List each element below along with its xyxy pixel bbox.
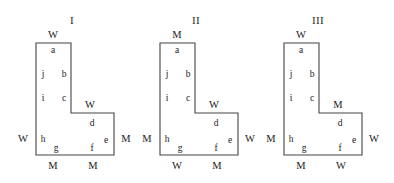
figure-3-bottom-right-label: W <box>336 161 346 172</box>
figure-2-edge-j: j <box>166 70 169 80</box>
figure-1-edge-i: i <box>42 94 45 104</box>
figure-2-edge-c: c <box>186 94 190 104</box>
figure-2-right-label: W <box>245 134 255 145</box>
figure-1-edge-e: e <box>104 136 108 146</box>
figure-2-outline-svg <box>0 0 394 183</box>
figure-1: IWWMMMWabcdefghij <box>0 0 394 183</box>
figure-3-edge-a: a <box>299 46 303 56</box>
figure-2-top-label: M <box>172 30 181 41</box>
figure-1-polygon <box>36 43 114 155</box>
figure-3-left-label: M <box>266 134 275 145</box>
figure-2-left-label: M <box>142 134 151 145</box>
figure-3-right-label: W <box>369 134 379 145</box>
figure-3-polygon <box>284 43 362 155</box>
figure-2: IIMMWWMWabcdefghij <box>0 0 394 183</box>
figure-1-bottom-left-label: M <box>48 161 57 172</box>
figure-2-polygon <box>160 43 238 155</box>
figure-2-step-label: W <box>209 100 219 111</box>
figure-1-outline-svg <box>0 0 394 183</box>
figure-3-edge-d: d <box>338 119 343 129</box>
figure-1-edge-b: b <box>62 70 67 80</box>
figure-3-edge-g: g <box>302 144 307 154</box>
figure-3: IIIWMWMWMabcdefghij <box>0 0 394 183</box>
figure-1-edge-j: j <box>42 70 45 80</box>
figure-1-right-label: M <box>121 134 130 145</box>
figure-1-edge-c: c <box>62 94 66 104</box>
figure-3-edge-h: h <box>289 135 294 145</box>
figure-1-step-label: W <box>85 100 95 111</box>
figure-3-edge-i: i <box>290 94 293 104</box>
figure-1-left-label: W <box>18 134 28 145</box>
figure-3-bottom-left-label: M <box>296 161 305 172</box>
figure-2-edge-b: b <box>186 70 191 80</box>
figure-3-edge-j: j <box>290 70 293 80</box>
figure-2-edge-i: i <box>166 94 169 104</box>
figure-3-edge-b: b <box>310 70 315 80</box>
figure-2-edge-e: e <box>228 136 232 146</box>
figure-1-top-label: W <box>48 30 58 41</box>
figure-2-bottom-right-label: M <box>212 161 221 172</box>
figure-3-edge-f: f <box>338 144 341 154</box>
figure-1-edge-f: f <box>90 144 93 154</box>
figure-3-top-label: W <box>296 30 306 41</box>
figure-3-edge-c: c <box>310 94 314 104</box>
figure-1-edge-h: h <box>41 135 46 145</box>
figure-2-edge-f: f <box>214 144 217 154</box>
figure-2-bottom-left-label: W <box>172 161 182 172</box>
figure-2-edge-d: d <box>214 119 219 129</box>
figure-1-edge-g: g <box>54 144 59 154</box>
figure-2-roman-numeral: II <box>192 15 200 26</box>
figure-canvas: IWWMMMWabcdefghijIIMMWWMWabcdefghijIIIWM… <box>0 0 394 183</box>
figure-1-bottom-right-label: M <box>88 161 97 172</box>
figure-1-roman-numeral: I <box>70 15 74 26</box>
figure-2-edge-g: g <box>178 144 183 154</box>
figure-3-outline-svg <box>0 0 394 183</box>
figure-1-edge-a: a <box>51 46 55 56</box>
figure-2-edge-a: a <box>175 46 179 56</box>
figure-3-edge-e: e <box>352 136 356 146</box>
figure-1-edge-d: d <box>90 119 95 129</box>
figure-2-edge-h: h <box>165 135 170 145</box>
figure-3-step-label: M <box>333 100 342 111</box>
figure-3-roman-numeral: III <box>312 15 324 26</box>
